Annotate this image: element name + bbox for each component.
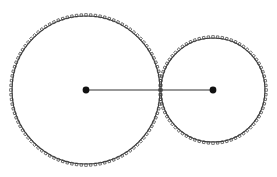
gear-tooth (40, 28, 43, 32)
gear-tooth (80, 14, 83, 17)
gear-tooth (16, 56, 19, 59)
gear-tooth (142, 40, 146, 44)
gear-tooth (185, 134, 188, 137)
gear-tooth (52, 20, 55, 23)
gear-tooth (94, 163, 97, 166)
gear-tooth (80, 163, 83, 166)
gear-tooth (112, 158, 115, 161)
gear-tooth (57, 158, 60, 161)
gear-tooth (159, 98, 162, 101)
gear-tooth (124, 25, 127, 28)
gear-tooth (40, 149, 43, 153)
gear-tooth (128, 28, 131, 32)
gear-tooth (198, 140, 201, 143)
gear-tooth (61, 160, 64, 163)
gear-tooth (66, 16, 69, 19)
gear-tooth (264, 93, 267, 96)
gear-tooth (221, 36, 224, 39)
gear-tooth (103, 16, 106, 19)
gear-tooth (44, 152, 47, 155)
gear-tooth (152, 56, 155, 59)
gear-tooth (71, 15, 74, 18)
gear-tooth (225, 37, 228, 40)
gear-tooth (124, 152, 127, 155)
gear-tooth (75, 163, 78, 166)
gear-tooth (238, 42, 241, 45)
gear-tooth (66, 161, 69, 164)
gear-tooth (148, 48, 151, 51)
gear-tooth (61, 17, 64, 20)
gear-tooth (44, 25, 47, 28)
gear-tooth (263, 75, 266, 78)
gear-tooth (99, 15, 102, 18)
gear-tooth (36, 30, 40, 34)
gear-tooth (148, 128, 151, 131)
gear-tooth (21, 128, 24, 131)
large-gear-center-dot (83, 87, 90, 94)
gear-tooth (160, 102, 163, 105)
gear-tooth (10, 84, 13, 87)
gear-diagram (0, 0, 277, 177)
gear-tooth (255, 58, 259, 61)
gear-tooth (152, 120, 155, 123)
gear-tooth (156, 65, 159, 68)
gear-tooth (185, 42, 188, 45)
gear-tooth (162, 70, 165, 73)
gear-tooth (168, 119, 172, 122)
gear-tooth (132, 30, 136, 34)
gear-tooth (162, 107, 165, 110)
gear-tooth (10, 98, 13, 101)
gear-tooth (108, 17, 111, 20)
gear-tooth (57, 19, 60, 22)
gear-tooth (16, 120, 19, 123)
gear-tooth (156, 112, 159, 115)
gear-tooth (116, 20, 119, 23)
gear-tooth (145, 44, 149, 47)
gear-tooth (36, 146, 40, 150)
gear-tooth (264, 84, 267, 87)
gear-tooth (257, 115, 260, 118)
gear-tooth (159, 79, 162, 82)
gear-tooth (142, 136, 146, 140)
gear-tooth (221, 141, 224, 144)
gear-tooth (225, 140, 228, 143)
gear-tooth (11, 75, 14, 78)
gear-tooth (264, 98, 267, 101)
small-gear-center-dot (210, 87, 217, 94)
gear-tooth (89, 163, 92, 166)
gear-tooth (257, 62, 260, 65)
gear-tooth (202, 141, 205, 144)
gear-tooth (234, 40, 237, 43)
gear-tooth (207, 36, 210, 39)
gear-tooth (13, 112, 16, 115)
gear-tooth (255, 119, 259, 122)
gear-tooth (249, 126, 253, 130)
gear-tooth (24, 44, 28, 47)
gear-tooth (75, 14, 78, 17)
gear-tooth (165, 62, 168, 65)
gear-tooth (165, 115, 168, 118)
gear-tooth (132, 146, 136, 150)
gear-tooth (10, 93, 13, 96)
gear-tooth (238, 134, 241, 137)
gear-tooth (216, 36, 219, 39)
gear-tooth (157, 107, 160, 110)
gear-tooth (13, 65, 16, 68)
gear-tooth (24, 132, 28, 135)
gear-tooth (108, 160, 111, 163)
diagram-canvas (0, 0, 277, 177)
gear-tooth (52, 156, 55, 159)
gear-tooth (207, 141, 210, 144)
gear-tooth (193, 39, 196, 42)
gear-tooth (71, 162, 74, 165)
gear-tooth (216, 141, 219, 144)
gear-tooth (163, 111, 166, 114)
gear-tooth (259, 66, 262, 69)
gear-tooth (99, 162, 102, 165)
gear-tooth (103, 161, 106, 164)
gear-tooth (259, 111, 262, 114)
gear-tooth (261, 70, 264, 73)
gear-tooth (154, 116, 157, 119)
gear-tooth (263, 102, 266, 105)
gear-tooth (264, 79, 267, 82)
